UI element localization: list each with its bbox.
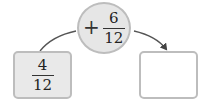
operation-fraction: 6 12 bbox=[103, 11, 125, 46]
start-denominator: 12 bbox=[33, 76, 52, 93]
right-arrow bbox=[134, 31, 166, 49]
result-answer-box[interactable] bbox=[139, 51, 198, 99]
operation-denominator: 12 bbox=[104, 29, 123, 46]
operation-circle: + 6 12 bbox=[77, 2, 131, 54]
operation-numerator: 6 bbox=[107, 11, 121, 28]
start-fraction: 4 12 bbox=[32, 58, 54, 93]
left-connector bbox=[40, 31, 76, 51]
plus-sign: + bbox=[83, 15, 100, 39]
start-numerator: 4 bbox=[36, 58, 50, 75]
start-value-box: 4 12 bbox=[13, 51, 72, 99]
